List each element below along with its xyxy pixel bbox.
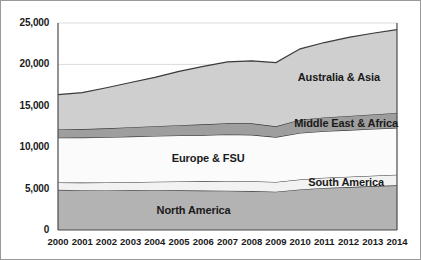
series-label-australia-asia: Australia & Asia	[298, 71, 380, 83]
x-axis-tick-label: 2001	[72, 236, 93, 247]
x-axis-tick-label: 2007	[217, 236, 238, 247]
stacked-area-chart: 05,00010,00015,00020,00025,0002000200120…	[0, 0, 421, 260]
x-axis-tick-label: 2004	[144, 236, 165, 247]
x-axis-tick-label: 2006	[193, 236, 214, 247]
x-axis-tick-label: 2003	[120, 236, 141, 247]
y-axis-tick-label: 20,000	[3, 58, 49, 69]
y-axis-tick-label: 5,000	[3, 183, 49, 194]
series-label-north-america: North America	[157, 204, 231, 216]
y-axis-tick-label: 0	[3, 224, 49, 235]
x-axis-tick-label: 2002	[96, 236, 117, 247]
x-axis-tick-label: 2010	[290, 236, 311, 247]
x-axis-tick-label: 2008	[241, 236, 262, 247]
chart-plot-area	[1, 1, 421, 260]
x-axis-tick-label: 2005	[168, 236, 189, 247]
x-axis-tick-label: 2011	[314, 236, 335, 247]
x-axis-tick-label: 2014	[386, 236, 407, 247]
series-label-south-america: South America	[308, 176, 384, 188]
x-axis-tick-label: 2012	[338, 236, 359, 247]
y-axis-tick-label: 25,000	[3, 17, 49, 28]
y-axis-tick-label: 10,000	[3, 141, 49, 152]
x-axis-tick-label: 2013	[362, 236, 383, 247]
series-label-europe-fsu: Europe & FSU	[172, 152, 245, 164]
y-axis-tick-label: 15,000	[3, 100, 49, 111]
series-label-middle-east-africa: Middle East & Africa	[294, 117, 398, 129]
x-axis-tick-label: 2009	[265, 236, 286, 247]
x-axis-tick-label: 2000	[47, 236, 68, 247]
